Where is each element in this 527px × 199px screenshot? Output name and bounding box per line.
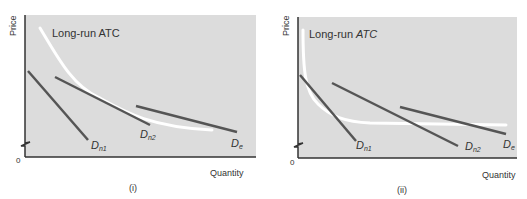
- x-axis-label: Quantity: [210, 168, 244, 178]
- y-axis-label: Price: [281, 15, 291, 36]
- panel-ii: Price 0 Long-run ATC Dn1 Dn2 De Quantity…: [281, 15, 517, 195]
- atc-curve-label: Long-run ATC: [309, 28, 377, 40]
- x-axis-label: Quantity: [482, 170, 516, 180]
- economies-of-scale-diagram: Price 0 Long-run ATC Dn1 Dn2 De Quantity…: [0, 0, 527, 199]
- atc-curve-label: Long-run ATC: [52, 27, 120, 39]
- origin-label: 0: [16, 156, 21, 165]
- panel-caption: (ii): [397, 185, 407, 195]
- origin-label: 0: [290, 158, 295, 167]
- panel-caption: (i): [129, 183, 137, 193]
- panel-i: Price 0 Long-run ATC Dn1 Dn2 De Quantity…: [8, 15, 256, 193]
- y-axis-label: Price: [8, 15, 18, 36]
